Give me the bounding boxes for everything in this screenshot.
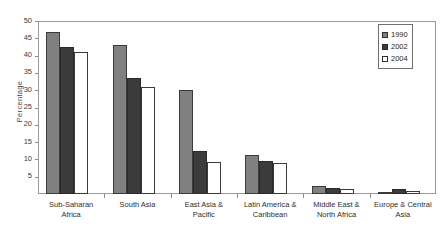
bar [207, 162, 221, 194]
bar [312, 186, 326, 194]
x-axis-category-label: Middle East & North Africa [303, 200, 369, 220]
y-axis-tick-label: 20 [24, 119, 32, 128]
x-axis-tick-mark [171, 194, 172, 198]
bar [60, 47, 74, 194]
x-axis-tick-mark [370, 194, 371, 198]
bar-group [179, 21, 221, 194]
legend-item-label: 2004 [391, 54, 408, 63]
legend-item: 1990 [382, 29, 408, 40]
bar [46, 32, 60, 194]
legend-item-label: 2002 [391, 42, 408, 51]
legend-swatch-icon [382, 56, 388, 62]
y-axis-title: Percentage [15, 47, 24, 157]
bar [193, 151, 207, 194]
y-axis-tick-label: 5 [28, 171, 32, 180]
bar-group [46, 21, 88, 194]
y-axis-tick-label: 40 [24, 50, 32, 59]
bar [378, 192, 392, 194]
x-axis-tick-mark [303, 194, 304, 198]
bar [392, 189, 406, 194]
legend-swatch-icon [382, 44, 388, 50]
y-axis-tick-label: 45 [24, 33, 32, 42]
legend-item: 2004 [382, 53, 408, 64]
bar [326, 188, 340, 194]
y-axis-tick-label: 15 [24, 137, 32, 146]
bar-chart-figure: Percentage 5101520253035404550 Sub-Sahar… [0, 0, 443, 239]
y-axis-tick-label: 35 [24, 67, 32, 76]
bar [273, 163, 287, 194]
bar [113, 45, 127, 194]
x-axis-category-label: Latin America & Caribbean [237, 200, 303, 220]
bar [141, 87, 155, 194]
y-axis-tick-label: 50 [24, 16, 32, 25]
bar-group [245, 21, 287, 194]
bar [406, 191, 420, 194]
legend-swatch-icon [382, 32, 388, 38]
chart-legend: 199020022004 [378, 24, 413, 69]
bar [340, 189, 354, 194]
y-axis-tick-label: 10 [24, 154, 32, 163]
bars-layer [38, 21, 436, 194]
y-axis-tick-label: 25 [24, 102, 32, 111]
x-axis-category-label: Sub-Saharan Africa [38, 200, 104, 220]
bar [179, 90, 193, 194]
bar [74, 52, 88, 194]
x-axis-category-label: Europe & Central Asia [370, 200, 436, 220]
bar-group [312, 21, 354, 194]
y-axis-tick-label: 30 [24, 85, 32, 94]
x-axis-tick-mark [237, 194, 238, 198]
legend-item: 2002 [382, 41, 408, 52]
bar [127, 78, 141, 194]
x-axis-tick-mark [104, 194, 105, 198]
x-axis-category-label: South Asia [104, 200, 170, 210]
bar [245, 155, 259, 194]
bar [259, 161, 273, 194]
x-axis-category-label: East Asia & Pacific [171, 200, 237, 220]
legend-item-label: 1990 [391, 30, 408, 39]
bar-group [113, 21, 155, 194]
